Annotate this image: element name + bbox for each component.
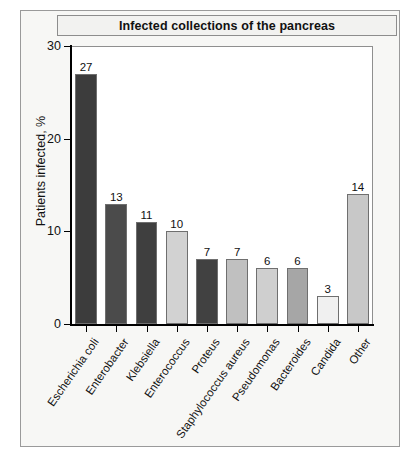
x-tick-mark: [267, 325, 268, 332]
bar-value-label: 6: [264, 255, 270, 267]
y-tick-mark: [64, 46, 70, 47]
x-category-label: Other: [346, 336, 372, 366]
bar: 7: [226, 259, 248, 324]
x-category-label: Escherichia coli: [45, 336, 101, 408]
bar: 27: [75, 74, 97, 324]
y-tick-label: 30: [47, 39, 61, 53]
chart-title: Infected collections of the pancreas: [119, 19, 335, 33]
x-tick-mark: [237, 325, 238, 332]
bar-value-label: 7: [204, 246, 210, 258]
y-tick-label: 10: [47, 224, 61, 238]
bar-value-label: 11: [141, 209, 153, 221]
bar: 6: [287, 268, 309, 324]
x-tick-mark: [207, 325, 208, 332]
y-tick-label: 0: [54, 317, 61, 331]
bar-value-label: 14: [351, 181, 364, 193]
bar-value-label: 7: [234, 246, 240, 258]
bar-value-label: 3: [324, 283, 330, 295]
y-tick-label: 20: [47, 132, 61, 146]
y-axis-line: [70, 45, 72, 325]
bar: 6: [256, 268, 278, 324]
bar-value-label: 10: [170, 218, 183, 230]
bar: 13: [105, 204, 127, 324]
bar: 10: [166, 231, 188, 324]
x-tick-mark: [358, 325, 359, 332]
x-tick-mark: [116, 325, 117, 332]
x-tick-mark: [328, 325, 329, 332]
y-tick-mark: [64, 231, 70, 232]
bar: 3: [317, 296, 339, 324]
chart-figure: Infected collections of the pancreas Pat…: [20, 10, 400, 447]
plot-area: 0102030 271311107766314 Escherichia coli…: [71, 46, 373, 324]
bar-value-label: 6: [294, 255, 300, 267]
x-tick-mark: [86, 325, 87, 332]
x-tick-mark: [147, 325, 148, 332]
x-category-label: Proteus: [189, 336, 222, 375]
x-category-label: Candida: [308, 336, 342, 378]
bar: 7: [196, 259, 218, 324]
y-tick-mark: [64, 139, 70, 140]
x-tick-mark: [177, 325, 178, 332]
y-tick-mark: [64, 324, 70, 325]
bar: 11: [136, 222, 158, 324]
bar-value-label: 27: [80, 61, 93, 73]
bar-value-label: 13: [110, 191, 123, 203]
x-tick-mark: [298, 325, 299, 332]
y-axis-title-text: Patients infected, %: [33, 56, 49, 286]
chart-title-box: Infected collections of the pancreas: [57, 15, 397, 36]
bar: 14: [347, 194, 369, 324]
